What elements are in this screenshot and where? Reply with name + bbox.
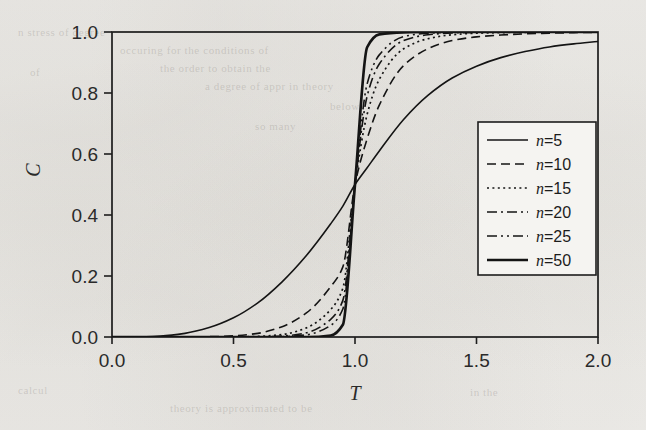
- figure-container: 0.00.51.01.52.0 0.00.20.40.60.81.0 T C n…: [0, 0, 646, 430]
- x-tick-label: 2.0: [585, 350, 611, 371]
- x-axis-title: T: [349, 382, 362, 404]
- legend-label-n-15: n=15: [536, 180, 571, 197]
- legend-label-n-50: n=50: [536, 252, 571, 269]
- legend-label-n-5: n=5: [536, 132, 562, 149]
- y-axis-title: C: [22, 163, 44, 177]
- legend-label-n-25: n=25: [536, 228, 571, 245]
- x-tick-label: 1.5: [463, 350, 489, 371]
- y-tick-label: 1.0: [72, 22, 98, 43]
- chart-svg: 0.00.51.01.52.0 0.00.20.40.60.81.0 T C n…: [0, 0, 646, 430]
- legend: n=5n=10n=15n=20n=25n=50: [478, 122, 596, 275]
- x-axis-ticks: [112, 337, 598, 344]
- y-tick-label: 0.0: [72, 327, 98, 348]
- x-tick-label: 0.5: [220, 350, 246, 371]
- legend-label-n-10: n=10: [536, 156, 571, 173]
- y-axis-ticks: [104, 32, 112, 337]
- x-axis-tick-labels: 0.00.51.01.52.0: [99, 350, 611, 371]
- y-tick-label: 0.4: [72, 205, 99, 226]
- y-axis-tick-labels: 0.00.20.40.60.81.0: [72, 22, 99, 348]
- y-tick-label: 0.6: [72, 144, 98, 165]
- y-tick-label: 0.2: [72, 266, 98, 287]
- y-tick-label: 0.8: [72, 83, 98, 104]
- x-tick-label: 0.0: [99, 350, 125, 371]
- x-tick-label: 1.0: [342, 350, 368, 371]
- legend-label-n-20: n=20: [536, 204, 571, 221]
